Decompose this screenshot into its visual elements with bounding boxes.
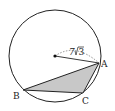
radius-label: 7 3 bbox=[69, 47, 85, 57]
geometry-diagram: 7 3 A B C bbox=[0, 0, 115, 111]
label-b: B bbox=[13, 91, 20, 101]
svg-text:7: 7 bbox=[69, 47, 75, 57]
label-c: C bbox=[82, 96, 89, 106]
label-a: A bbox=[100, 59, 108, 69]
radius-segment bbox=[55, 56, 99, 63]
center-point bbox=[53, 54, 56, 57]
svg-text:3: 3 bbox=[79, 47, 85, 57]
